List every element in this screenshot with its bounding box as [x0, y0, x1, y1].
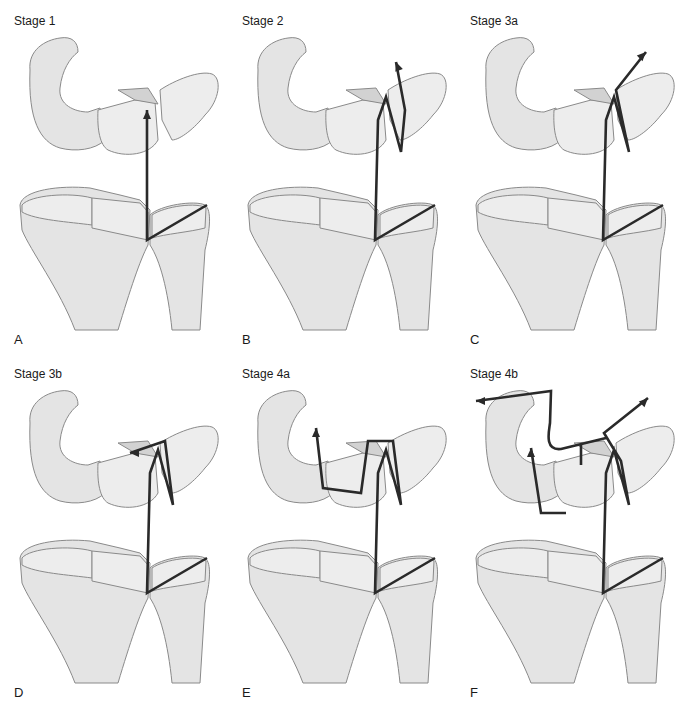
panel-letter: E: [242, 685, 251, 700]
scaphoid-bone: [98, 100, 158, 154]
figure-panel-f: Stage 4b F: [456, 353, 684, 706]
arrowheads: [392, 61, 403, 72]
wrist-bones-illustration: [456, 0, 684, 353]
stage-title: Stage 3b: [14, 367, 62, 381]
figure-panel-c: Stage 3a C: [456, 0, 684, 353]
arrowhead-icon: [476, 397, 485, 405]
panel-letter: D: [14, 685, 23, 700]
lunate-scaphoid-bone: [486, 38, 561, 150]
panel-letter: C: [470, 332, 479, 347]
triquetrum-bone: [388, 426, 446, 493]
arrowhead-icon: [527, 448, 535, 457]
panel-letter: A: [14, 332, 23, 347]
wrist-bones-illustration: [0, 0, 228, 353]
arrowhead-icon: [392, 61, 403, 72]
figure-panel-a: Stage 1 A: [0, 0, 228, 353]
figure-panel-b: Stage 2 B: [228, 0, 456, 353]
wrist-bones-illustration: [0, 353, 228, 706]
figure-panel-d: Stage 3b D: [0, 353, 228, 706]
carpal-injury-stages-figure: Stage 1 A Stage 2 B: [0, 0, 684, 707]
lunate-scaphoid-bone: [258, 38, 333, 150]
lunate-scaphoid-bone: [30, 391, 105, 503]
triquetrum-bone: [388, 73, 446, 140]
arrowheads: [312, 428, 320, 437]
triquetrum-bone: [160, 426, 218, 493]
stage-title: Stage 3a: [470, 14, 518, 28]
lunate-scaphoid-bone: [30, 38, 105, 150]
triquetrum-bone: [160, 73, 218, 140]
figure-panel-e: Stage 4a E: [228, 353, 456, 706]
wrist-bones-illustration: [228, 0, 456, 353]
stage-title: Stage 2: [242, 14, 283, 28]
panel-letter: F: [470, 685, 478, 700]
wrist-bones-illustration: [456, 353, 684, 706]
stage-title: Stage 1: [14, 14, 55, 28]
panel-letter: B: [242, 332, 251, 347]
stage-title: Stage 4a: [242, 367, 290, 381]
stage-title: Stage 4b: [470, 367, 518, 381]
wrist-bones-illustration: [228, 353, 456, 706]
arrowhead-icon: [312, 428, 320, 437]
